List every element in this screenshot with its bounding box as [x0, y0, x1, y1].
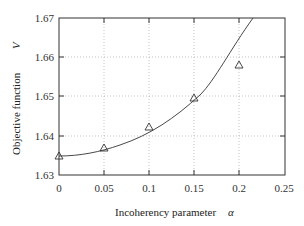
- y-tick: 1.64: [35, 130, 55, 142]
- x-axis-label: Incoherency parameter: [115, 206, 216, 218]
- x-tick: 0.1: [142, 182, 156, 194]
- y-tick: 1.63: [35, 169, 55, 181]
- x-tick: 0.2: [232, 182, 246, 194]
- x-tick: 0.25: [274, 182, 294, 194]
- y-tick: 1.67: [35, 12, 55, 24]
- y-axis-symbol: V: [10, 41, 22, 49]
- plot-frame: [59, 18, 285, 175]
- x-tick: 0.15: [184, 182, 204, 194]
- chart: 0 0.05 0.1 0.15 0.2 0.25 1.63 1.64 1.65 …: [0, 0, 304, 226]
- x-axis-symbol: α: [228, 206, 234, 218]
- fitted-curve: [59, 18, 253, 156]
- x-tick: 0.05: [94, 182, 114, 194]
- grid: [59, 18, 285, 175]
- x-tick: 0: [56, 182, 62, 194]
- y-tick: 1.66: [35, 51, 55, 63]
- y-axis-label: Objective function: [10, 72, 22, 155]
- y-tick: 1.65: [35, 90, 55, 102]
